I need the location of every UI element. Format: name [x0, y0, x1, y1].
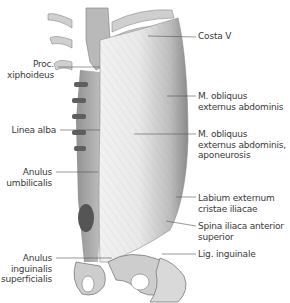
- label-lig-inguinale: Lig. inguinale: [198, 249, 256, 260]
- label-linea-alba: Linea alba: [12, 125, 56, 136]
- label-anulus-umbilicalis: Anulus umbilicalis: [6, 167, 52, 188]
- label-m-obliquus-externus: M. obliquus externus abdominis: [198, 91, 283, 112]
- label-spina-iliaca: Spina iliaca anterior superior: [198, 221, 284, 242]
- label-proc-xiphoideus: Proc. xiphoideus: [7, 59, 54, 80]
- label-costa-v: Costa V: [198, 31, 231, 42]
- label-anulus-inguinalis-superficialis: Anulus inguinalis superficialis: [1, 253, 52, 285]
- label-labium-externum: Labium externum cristae iliacae: [198, 193, 275, 214]
- label-m-obliquus-aponeurosis: M. obliquus externus abdominis, aponeuro…: [198, 129, 286, 161]
